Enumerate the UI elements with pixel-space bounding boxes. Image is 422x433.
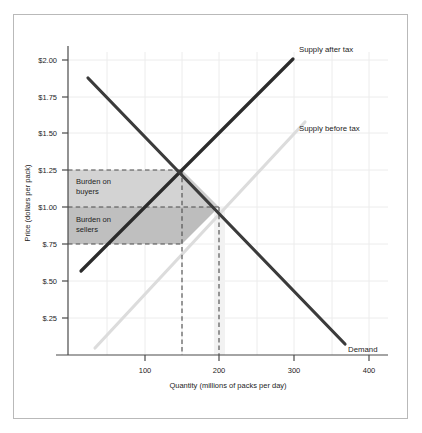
x-axis-title: Quantity (millions of packs per day) bbox=[169, 381, 287, 390]
demand-label: Demand bbox=[348, 345, 377, 354]
y-tick-label-1.75: $1.75 bbox=[38, 93, 57, 102]
x-axis-ticks bbox=[145, 355, 369, 361]
y-tick-label-0.25: $.25 bbox=[42, 314, 57, 323]
burden-on-sellers-label-line2: sellers bbox=[76, 225, 98, 234]
y-axis-ticks bbox=[62, 60, 68, 318]
y-axis-title: Price (dollars per pack) bbox=[23, 164, 32, 242]
x-tick-label-100: 100 bbox=[139, 366, 152, 375]
y-axis-tick-labels: $2.00 $1.75 $1.50 $1.25 $1.00 $.75 $.50 … bbox=[38, 56, 57, 323]
chart-canvas: $2.00 $1.75 $1.50 $1.25 $1.00 $.75 $.50 … bbox=[0, 0, 422, 433]
burden-on-sellers-label-line1: Burden on bbox=[76, 215, 111, 224]
x-axis-tick-labels: 100 200 300 400 bbox=[139, 366, 376, 375]
y-tick-label-1.00: $1.00 bbox=[38, 203, 57, 212]
y-tick-label-1.50: $1.50 bbox=[38, 129, 57, 138]
y-tick-label-1.25: $1.25 bbox=[38, 166, 57, 175]
y-tick-label-2.00: $2.00 bbox=[38, 56, 57, 65]
tax-wedge-upper-triangle bbox=[182, 170, 219, 207]
burden-on-buyers-label-line2: buyers bbox=[76, 187, 99, 196]
x-tick-label-300: 300 bbox=[288, 366, 301, 375]
x-tick-label-400: 400 bbox=[363, 366, 376, 375]
y-tick-label-0.75: $.75 bbox=[42, 240, 57, 249]
supply-demand-tax-incidence-figure: $2.00 $1.75 $1.50 $1.25 $1.00 $.75 $.50 … bbox=[0, 0, 422, 433]
y-tick-label-0.50: $.50 bbox=[42, 277, 57, 286]
tax-wedge-lower-triangle bbox=[182, 207, 219, 244]
supply-after-tax-label: Supply after tax bbox=[299, 45, 353, 54]
x-tick-label-200: 200 bbox=[213, 366, 226, 375]
supply-before-tax-label: Supply before tax bbox=[299, 124, 360, 133]
burden-on-buyers-label-line1: Burden on bbox=[76, 177, 111, 186]
supply-after-tax-line bbox=[81, 59, 293, 271]
